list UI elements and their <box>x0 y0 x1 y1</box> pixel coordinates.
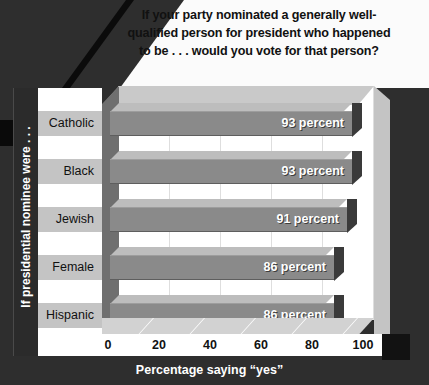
x-axis-label: Percentage saying “yes” <box>37 358 382 382</box>
bar-hispanic: 86 percent <box>110 295 334 320</box>
x-tick-100: 100 <box>346 334 380 356</box>
category-label-black: Black <box>33 159 98 184</box>
category-label-catholic: Catholic <box>33 111 98 136</box>
y-axis-label: If presidential nominee were . . . <box>19 83 33 351</box>
bar-female: 86 percent <box>110 247 334 272</box>
bar-jewish: 91 percent <box>110 199 347 224</box>
gridline-100 <box>373 86 374 320</box>
x-tick-40: 40 <box>193 334 227 356</box>
chart-title: If your party nominated a generally well… <box>96 7 422 61</box>
chart-title-line-2: qualified person for president who happe… <box>96 25 422 43</box>
category-label-jewish: Jewish <box>33 207 98 232</box>
x-tick-0: 0 <box>91 334 125 356</box>
bar-value-black: 93 percent <box>110 159 344 184</box>
chart-title-line-3: to be . . . would you vote for that pers… <box>96 43 422 61</box>
x-tick-60: 60 <box>244 334 278 356</box>
bar-value-female: 86 percent <box>110 255 326 280</box>
x-tick-20: 20 <box>142 334 176 356</box>
y-axis-nub <box>0 120 13 146</box>
chart-title-line-1: If your party nominated a generally well… <box>96 7 422 25</box>
bar-catholic: 93 percent <box>110 103 352 128</box>
x-axis-corner <box>382 334 410 360</box>
x-tick-80: 80 <box>295 334 329 356</box>
category-label-hispanic: Hispanic <box>33 303 98 328</box>
bar-value-jewish: 91 percent <box>110 207 339 232</box>
bar-black: 93 percent <box>110 151 352 176</box>
chart-figure: If your party nominated a generally well… <box>0 0 429 385</box>
y-axis-strip: If presidential nominee were . . . <box>13 88 38 356</box>
category-label-female: Female <box>33 255 98 280</box>
bar-value-catholic: 93 percent <box>110 111 344 136</box>
category-axis-column: Catholic Black Jewish Female Hispanic <box>37 88 102 334</box>
